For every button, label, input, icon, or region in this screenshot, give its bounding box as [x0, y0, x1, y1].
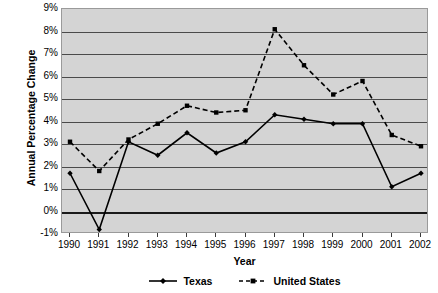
x-axis-tick-mark	[274, 233, 275, 237]
y-axis-tick-label: 1%	[24, 183, 58, 193]
x-axis-tick-mark	[245, 233, 246, 237]
x-axis-tick-mark	[128, 233, 129, 237]
x-axis-tick-mark	[391, 233, 392, 237]
series-line	[70, 29, 421, 171]
y-axis-tick-label: 2%	[24, 161, 58, 171]
series-line	[70, 115, 421, 230]
x-axis-tick-mark	[69, 233, 70, 237]
y-axis-tick-label: 5%	[24, 93, 58, 103]
y-axis-tick-labels: 9%8%7%6%5%4%3%2%1%0%-1%	[24, 0, 58, 240]
series-united-states	[68, 27, 423, 173]
data-point-marker	[419, 144, 423, 148]
legend-swatch-diamond-icon	[148, 275, 178, 287]
y-axis-tick-label: 7%	[24, 48, 58, 58]
data-point-marker	[185, 104, 189, 108]
data-point-marker	[97, 227, 102, 232]
data-point-marker	[156, 122, 160, 126]
plot-area	[61, 8, 428, 233]
data-point-marker	[418, 171, 423, 176]
data-point-marker	[389, 184, 394, 189]
legend-label: Texas	[183, 275, 212, 287]
x-axis-title: Year	[61, 255, 428, 267]
data-point-marker	[67, 171, 72, 176]
x-axis-tick-mark	[420, 233, 421, 237]
chart-legend: TexasUnited States	[61, 272, 428, 290]
series-texas	[67, 112, 423, 232]
legend-label: United States	[273, 275, 340, 287]
series-layer	[62, 9, 429, 234]
y-axis-tick-label: 6%	[24, 71, 58, 81]
x-axis-tick-mark	[332, 233, 333, 237]
data-point-marker	[243, 108, 247, 112]
y-axis-tick-label: 9%	[24, 3, 58, 13]
legend-entry-texas: Texas	[148, 275, 212, 287]
y-axis-tick-label: -1%	[24, 228, 58, 238]
data-point-marker	[301, 117, 306, 122]
data-point-marker	[302, 63, 306, 67]
x-axis-tick-labels: 1990199119921993199419951996199719981999…	[61, 233, 428, 255]
y-axis-tick-label: 4%	[24, 116, 58, 126]
x-axis-tick-mark	[98, 233, 99, 237]
x-axis-tick-mark	[303, 233, 304, 237]
x-axis-tick-label: 2002	[398, 239, 438, 250]
data-point-marker	[97, 169, 101, 173]
legend-entry-united-states: United States	[238, 275, 340, 287]
y-axis-tick-label: 0%	[24, 206, 58, 216]
line-chart: Annual Percentage Change 9%8%7%6%5%4%3%2…	[0, 0, 438, 293]
data-point-marker	[273, 27, 277, 31]
x-axis-tick-mark	[215, 233, 216, 237]
x-axis-tick-mark	[157, 233, 158, 237]
data-point-marker	[390, 133, 394, 137]
data-point-marker	[360, 121, 365, 126]
data-point-marker	[126, 137, 130, 141]
data-point-marker	[331, 121, 336, 126]
legend-swatch-square-icon	[238, 275, 268, 287]
y-axis-tick-label: 8%	[24, 26, 58, 36]
y-axis-tick-label: 3%	[24, 138, 58, 148]
data-point-marker	[214, 110, 218, 114]
data-point-marker	[68, 140, 72, 144]
x-axis-tick-mark	[186, 233, 187, 237]
x-axis-tick-mark	[362, 233, 363, 237]
data-point-marker	[360, 79, 364, 83]
data-point-marker	[331, 92, 335, 96]
